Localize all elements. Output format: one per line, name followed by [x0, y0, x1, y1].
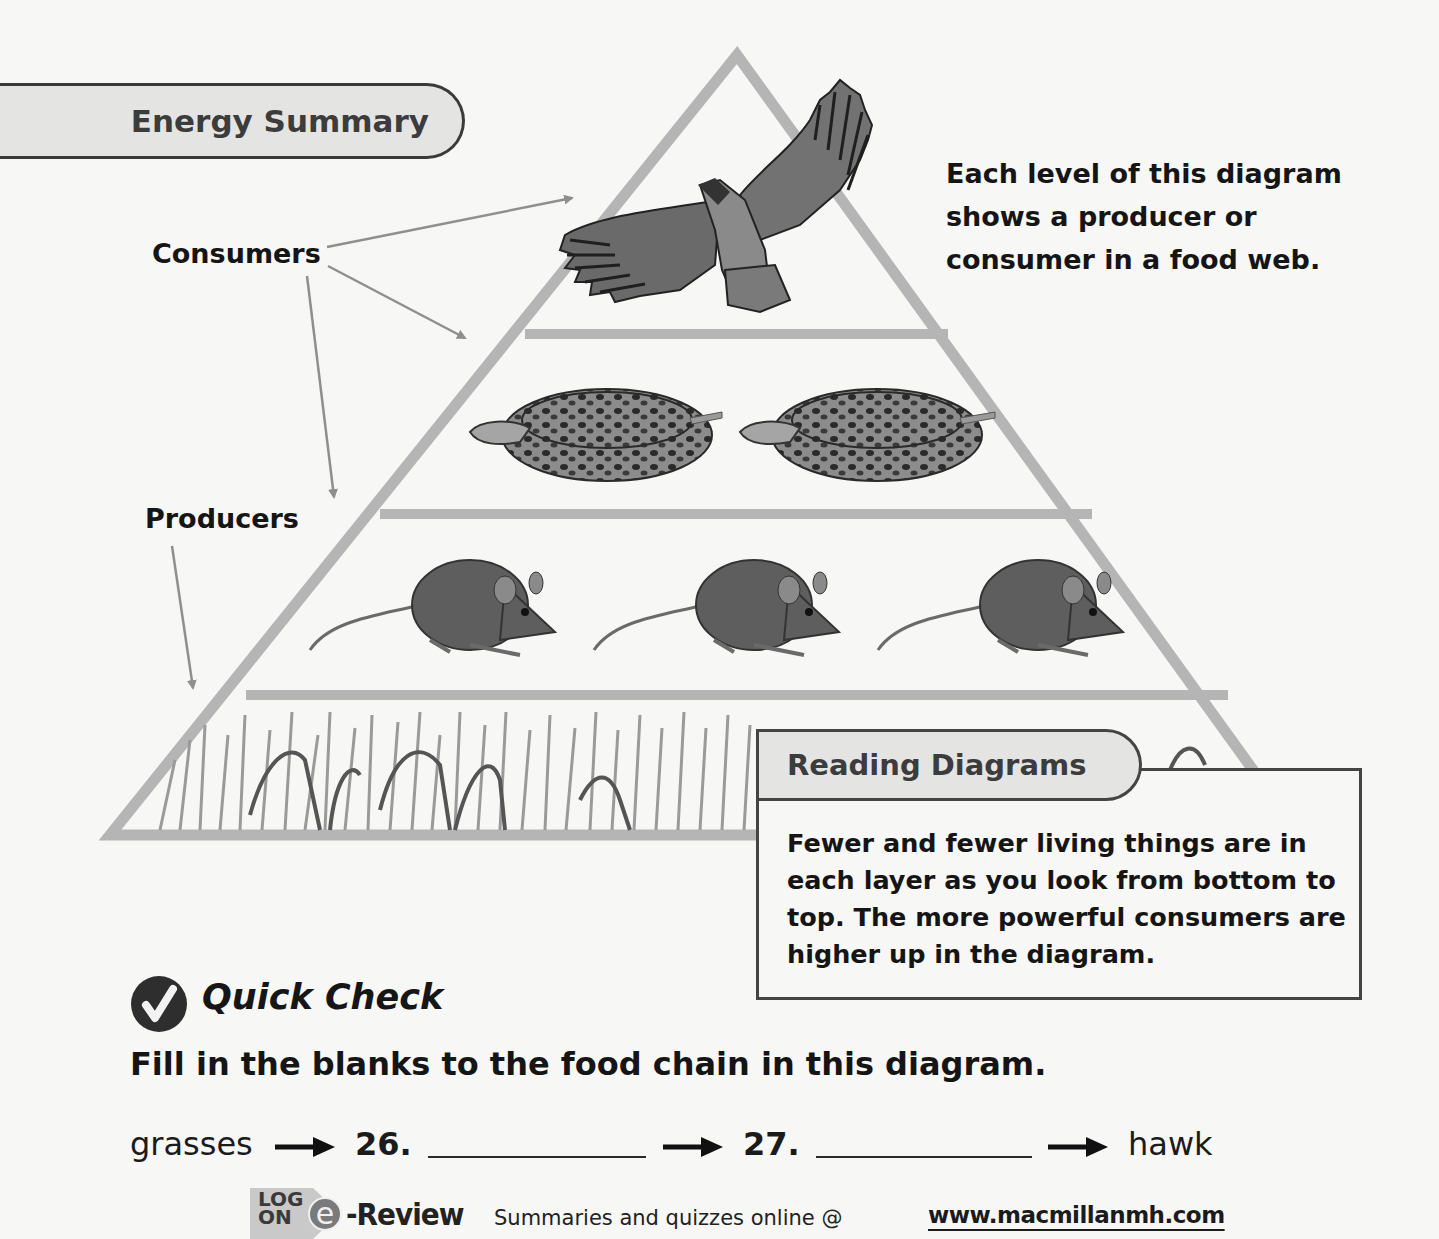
mouse-illustration-3 — [878, 560, 1123, 655]
reading-diagrams-body: Fewer and fewer living things are in eac… — [787, 825, 1347, 973]
e-review-icon: e — [308, 1197, 342, 1231]
arrow-right-icon — [663, 1137, 725, 1157]
food-chain-question: grasses 26. 27. hawk — [130, 1125, 1230, 1169]
summary-text: Summaries and quizzes online @ — [494, 1206, 842, 1230]
question-27-number: 27. — [743, 1125, 800, 1163]
producers-label: Producers — [145, 503, 299, 534]
reading-diagrams-title: Reading Diagrams — [787, 748, 1086, 782]
checkmark-icon — [131, 976, 187, 1032]
diagram-intro-text: Each level of this diagram shows a produ… — [946, 152, 1366, 281]
chain-start: grasses — [130, 1125, 253, 1163]
consumers-label: Consumers — [152, 238, 321, 269]
reading-diagrams-tab: Reading Diagrams — [756, 729, 1142, 801]
arrow-right-icon — [275, 1137, 337, 1157]
question-26-blank[interactable] — [428, 1156, 646, 1158]
snake-illustration-2 — [740, 389, 995, 481]
arrow-right-icon — [1048, 1137, 1110, 1157]
question-26-number: 26. — [355, 1125, 412, 1163]
question-27-blank[interactable] — [816, 1156, 1032, 1158]
snake-illustration-1 — [470, 389, 722, 481]
hawk-illustration — [560, 80, 872, 312]
quick-check-prompt: Fill in the blanks to the food chain in … — [130, 1045, 1046, 1083]
website-link[interactable]: www.macmillanmh.com — [928, 1202, 1225, 1228]
logon-label: LOG ON — [258, 1190, 303, 1226]
quick-check-title: Quick Check — [202, 977, 443, 1017]
mouse-illustration-2 — [594, 560, 839, 655]
chain-end: hawk — [1128, 1125, 1213, 1163]
e-review-label: -Review — [346, 1196, 463, 1232]
mouse-illustration-1 — [310, 560, 555, 655]
